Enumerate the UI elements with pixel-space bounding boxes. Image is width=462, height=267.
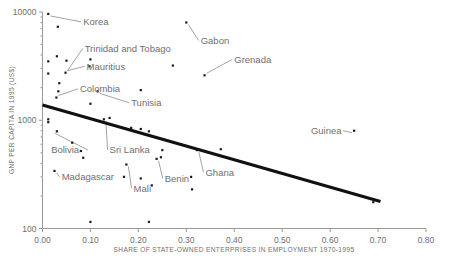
annotation-label: Gabon — [201, 35, 230, 46]
data-point — [89, 103, 91, 105]
annotation-leader-line — [188, 24, 198, 40]
x-axis-tick-labels: 0.000.100.200.300.400.500.600.700.80 — [34, 235, 434, 245]
annotation-label: Ghana — [205, 167, 234, 178]
data-point — [89, 221, 91, 223]
annotation-leader-line — [159, 161, 163, 179]
x-tick-label: 0.50 — [274, 235, 291, 245]
x-tick-label: 0.20 — [130, 235, 147, 245]
annotation-label: Tunisia — [131, 97, 162, 108]
data-point — [372, 201, 374, 203]
data-point — [151, 184, 153, 186]
scatter-chart-figure: 0.000.100.200.300.400.500.600.700.80 100… — [0, 0, 462, 267]
annotation-leader-line — [100, 93, 130, 102]
annotation-label: Colombia — [80, 83, 121, 94]
y-axis-title: GNP PER CAPITA IN 1995 (US$) — [8, 66, 16, 174]
y-axis-tick-labels: 100100010000 — [13, 7, 37, 234]
data-point — [47, 60, 49, 62]
x-tick-label: 0.80 — [418, 235, 435, 245]
annotation-leader-line — [106, 121, 108, 150]
data-point — [103, 118, 105, 120]
data-point — [190, 176, 192, 178]
annotation-leader-line — [199, 152, 204, 172]
y-tick-label: 1000 — [18, 115, 37, 125]
annotation-leader-line — [56, 173, 59, 177]
trend-line — [43, 105, 381, 201]
data-point — [55, 96, 57, 98]
data-point — [140, 128, 142, 130]
y-tick-label: 100 — [22, 224, 36, 234]
annotation-label: Grenada — [234, 54, 272, 65]
y-tick-label: 10000 — [13, 7, 37, 17]
data-point — [47, 72, 49, 74]
annotation-label: Trinidad and Tobago — [85, 43, 171, 54]
annotation-label: Mali — [134, 183, 151, 194]
annotation-label: Mauritius — [87, 61, 126, 72]
data-point — [172, 64, 174, 66]
data-point — [56, 55, 58, 57]
x-tick-label: 0.70 — [370, 235, 387, 245]
data-point — [160, 156, 162, 158]
data-point — [130, 127, 132, 129]
x-axis-ticks — [43, 229, 427, 233]
annotation-label: Sri Lanka — [110, 144, 151, 155]
data-point — [196, 149, 198, 151]
annotation-label: Guinea — [311, 125, 342, 136]
data-point — [123, 176, 125, 178]
data-point — [140, 89, 142, 91]
data-point — [47, 121, 49, 123]
annotation-leader-line — [207, 59, 233, 73]
data-point — [47, 13, 49, 15]
data-point — [47, 118, 49, 120]
data-point — [140, 177, 142, 179]
data-point — [109, 117, 111, 119]
data-point — [161, 149, 163, 151]
data-point — [220, 148, 222, 150]
data-point — [125, 163, 127, 165]
x-tick-label: 0.00 — [34, 235, 51, 245]
trend-line-group — [43, 105, 381, 201]
data-point — [191, 188, 193, 190]
x-tick-label: 0.30 — [178, 235, 195, 245]
x-tick-label: 0.40 — [226, 235, 243, 245]
annotation-leader-line — [343, 131, 352, 133]
data-point — [203, 74, 205, 76]
annotation-label: Madagascar — [62, 171, 114, 182]
annotation-labels-group: KoreaTrinidad and TobagoGabonMauritiusGr… — [51, 16, 342, 193]
data-point — [64, 72, 66, 74]
annotation-label: Bolivia — [51, 144, 80, 155]
annotation-leader-line — [128, 167, 131, 189]
x-axis-title: SHARE OF STATE-OWNED ENTERPRISES IN EMPL… — [114, 246, 355, 253]
annotation-label: Korea — [83, 16, 109, 27]
annotation-leader-line — [50, 16, 81, 22]
chart-canvas: 0.000.100.200.300.400.500.600.700.80 100… — [0, 0, 462, 267]
data-point — [148, 130, 150, 132]
data-point — [353, 130, 355, 132]
data-point — [58, 82, 60, 84]
data-point — [57, 90, 59, 92]
data-point — [53, 170, 55, 172]
data-point — [80, 150, 82, 152]
data-point — [82, 157, 84, 159]
y-axis-ticks — [39, 12, 43, 229]
x-tick-label: 0.10 — [82, 235, 99, 245]
data-point — [57, 26, 59, 28]
data-point — [148, 221, 150, 223]
data-point — [185, 21, 187, 23]
data-point — [155, 158, 157, 160]
data-point — [65, 60, 67, 62]
x-tick-label: 0.60 — [322, 235, 339, 245]
annotation-leader-line — [58, 89, 77, 96]
annotation-label: Benin — [165, 173, 189, 184]
data-point — [56, 130, 58, 132]
